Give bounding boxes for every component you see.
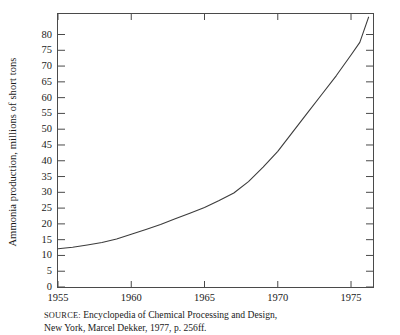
x-tick-label: 1955 [35,292,81,304]
y-tick-label: 35 [26,172,52,182]
y-tick-label: 10 [26,250,52,260]
y-tick-label: 70 [26,61,52,71]
plot-area [57,13,374,288]
y-tick-label: 40 [26,156,52,166]
y-axis-title: Ammonia production, millions of short to… [4,2,22,302]
y-tick-label: 80 [26,30,52,40]
source-line-2: New York, Marcel Dekker, 1977, p. 256ff. [44,322,207,333]
y-tick-label: 0 [26,282,52,292]
y-tick-label: 25 [26,203,52,213]
x-tick-label: 1965 [182,292,228,304]
y-tick-label: 45 [26,140,52,150]
data-line-chart [58,14,373,287]
y-tick-label: 5 [26,266,52,276]
y-tick-label: 20 [26,219,52,229]
x-tick-label: 1960 [108,292,154,304]
x-axis-tick-labels: 19551960196519701975 [57,292,374,306]
y-tick-label: 65 [26,77,52,87]
axis-ticks [58,14,373,287]
series-line-0 [58,17,369,249]
x-tick-label: 1970 [255,292,301,304]
source-note: SOURCE: Encyclopedia of Chemical Process… [44,309,384,333]
source-line-1: Encyclopedia of Chemical Processing and … [81,309,277,320]
y-tick-label: 15 [26,235,52,245]
chart-figure: Ammonia production, millions of short to… [0,0,400,335]
y-axis-tick-labels: 05101520253035404550556065707580 [22,13,52,288]
y-tick-label: 30 [26,187,52,197]
x-tick-label: 1975 [328,292,374,304]
source-label: SOURCE: [44,311,81,320]
y-tick-label: 75 [26,45,52,55]
y-tick-label: 55 [26,108,52,118]
y-tick-label: 50 [26,124,52,134]
y-tick-label: 60 [26,93,52,103]
